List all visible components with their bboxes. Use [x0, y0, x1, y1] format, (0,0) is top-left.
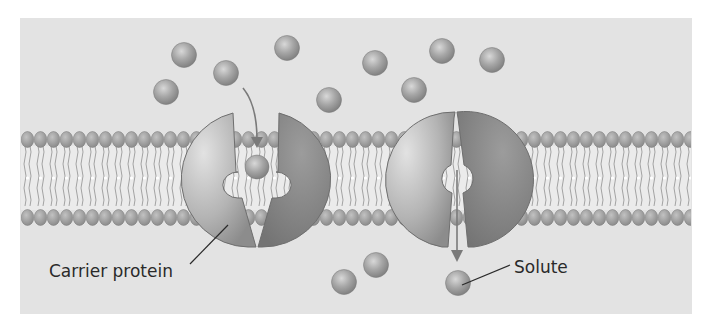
solute-molecule: [480, 48, 505, 73]
lipid-bilayer: [21, 131, 691, 226]
carrier-protein-diagram: Carrier protein Solute: [0, 0, 713, 326]
solute-molecule: [430, 39, 455, 64]
carrier-protein-label: Carrier protein: [49, 261, 173, 281]
solute-molecule: [402, 78, 427, 103]
solute-molecule: [317, 88, 342, 113]
solute-label: Solute: [514, 257, 568, 277]
solute-molecule: [363, 51, 388, 76]
solute-molecule: [214, 61, 239, 86]
solute-molecule: [172, 43, 197, 68]
solute-molecule: [275, 36, 300, 61]
bound-solute: [245, 155, 269, 179]
solute-molecule: [154, 80, 179, 105]
solute-molecule: [364, 253, 389, 278]
solute-molecule: [332, 270, 357, 295]
